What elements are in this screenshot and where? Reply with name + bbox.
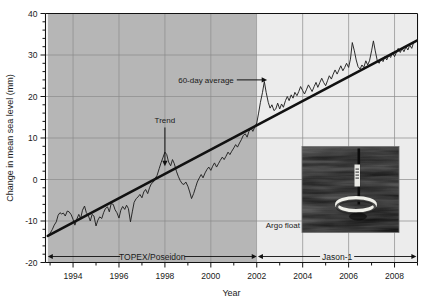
x-axis-title: Year <box>222 288 240 298</box>
x-tick-label: 1996 <box>110 271 129 281</box>
annotation-trend: Trend <box>155 116 176 125</box>
annotation-argo-float: Argo float <box>266 221 301 230</box>
x-tick-label: 2002 <box>247 271 266 281</box>
chart-canvas: -20-10010203040 199419961998200020022004… <box>0 0 430 302</box>
annotation-60-day-average: 60-day average <box>178 76 234 85</box>
x-tick-label: 1998 <box>155 271 174 281</box>
y-tick-label: -20 <box>25 258 38 268</box>
period-label-jason-1: Jason-1 <box>322 252 353 262</box>
y-tick-label: 0 <box>33 175 38 185</box>
y-tick-label: 40 <box>28 9 38 19</box>
x-tick-label: 2004 <box>293 271 312 281</box>
sea-level-chart-figure: -20-10010203040 199419961998200020022004… <box>0 0 430 302</box>
x-tick-label: 2008 <box>385 271 404 281</box>
y-axis-title: Change in mean sea level (mm) <box>5 74 15 202</box>
x-tick-label: 2000 <box>201 271 220 281</box>
argo-float-photo <box>302 147 399 233</box>
y-tick-label: 30 <box>28 50 38 60</box>
y-tick-label: -10 <box>25 216 38 226</box>
x-tick-label: 1994 <box>64 271 83 281</box>
y-tick-label: 20 <box>28 92 38 102</box>
y-tick-label: 10 <box>28 133 38 143</box>
period-label-topex-poseidon: TOPEX/Poseidon <box>119 252 186 262</box>
x-tick-label: 2006 <box>339 271 358 281</box>
